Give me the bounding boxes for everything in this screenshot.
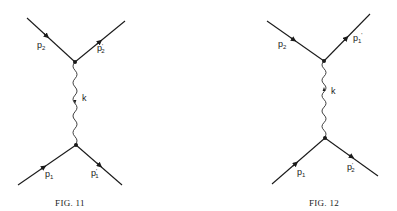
- label-lower-left: p1: [45, 169, 54, 180]
- label-upper-left: p2: [278, 39, 287, 50]
- figure-11: p2 p'2 p1 p'1 k FIG. 11: [18, 18, 125, 208]
- vertex-top: [322, 59, 326, 63]
- photon-arrow-icon: [323, 87, 326, 91]
- feynman-diagrams: p2 p'2 p1 p'1 k FIG. 11: [0, 0, 397, 211]
- photon-label: k: [82, 93, 87, 103]
- photon-line: [322, 61, 326, 138]
- figure-12: p2 p1' p1 p'2 k FIG. 12: [267, 14, 378, 208]
- vertex-bottom: [323, 136, 327, 140]
- label-upper-right: p1': [353, 32, 363, 44]
- vertex-top: [73, 60, 77, 64]
- label-lower-left: p1: [297, 167, 306, 178]
- caption-fig-12: FIG. 12: [309, 198, 339, 208]
- fermion-line-upper-left: [27, 18, 75, 62]
- fermion-line-lower-left: [272, 138, 325, 184]
- fermion-line-lower-right: [76, 145, 122, 185]
- photon-label: k: [331, 86, 336, 96]
- label-upper-right: p'2: [97, 43, 105, 54]
- fermion-line-upper-right: [324, 14, 370, 61]
- vertex-bottom: [74, 143, 78, 147]
- fermion-line-upper-right: [75, 21, 125, 62]
- label-lower-right: p'1: [91, 168, 99, 179]
- caption-fig-11: FIG. 11: [55, 198, 85, 208]
- fermion-line-lower-left: [18, 145, 76, 185]
- label-upper-left: p2: [37, 40, 46, 51]
- fermion-line-upper-left: [267, 21, 324, 61]
- label-lower-right: p'2: [347, 162, 355, 173]
